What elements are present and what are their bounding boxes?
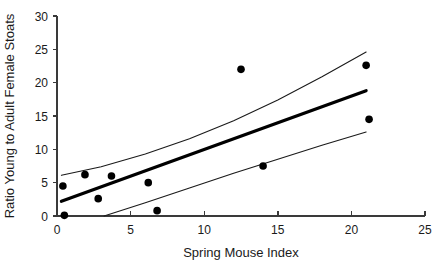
axes: 0510152025300510152025	[35, 10, 432, 238]
confidence-bands	[61, 52, 366, 216]
y-tick-label: 20	[35, 76, 49, 90]
data-point	[144, 179, 152, 187]
y-tick-label: 10	[35, 143, 49, 157]
y-axis-title: Ratio Young to Adult Female Stoats	[2, 13, 17, 218]
chart-figure: 0510152025300510152025 Spring Mouse Inde…	[0, 0, 439, 263]
data-point	[61, 212, 69, 220]
x-tick-label: 5	[127, 223, 134, 237]
x-tick-label: 15	[271, 223, 285, 237]
data-point	[365, 116, 373, 124]
data-point	[259, 162, 267, 170]
data-point	[94, 195, 102, 203]
data-points	[59, 62, 373, 220]
x-tick-label: 10	[198, 223, 212, 237]
y-tick-label: 0	[41, 210, 48, 224]
data-point	[153, 207, 161, 215]
confidence-upper-line	[61, 52, 366, 175]
y-tick-label: 15	[35, 110, 49, 124]
data-point	[237, 66, 245, 74]
confidence-lower-line	[104, 132, 366, 216]
data-point	[362, 62, 370, 70]
y-tick-label: 25	[35, 43, 49, 57]
x-axis-title: Spring Mouse Index	[183, 245, 299, 260]
x-tick-label: 0	[54, 223, 61, 237]
y-tick-label: 30	[35, 10, 49, 24]
x-tick-label: 25	[418, 223, 432, 237]
data-point	[108, 172, 116, 180]
data-point	[59, 182, 67, 190]
x-tick-label: 20	[345, 223, 359, 237]
y-tick-label: 5	[41, 176, 48, 190]
scatter-plot: 0510152025300510152025 Spring Mouse Inde…	[0, 0, 439, 263]
data-point	[81, 171, 89, 179]
